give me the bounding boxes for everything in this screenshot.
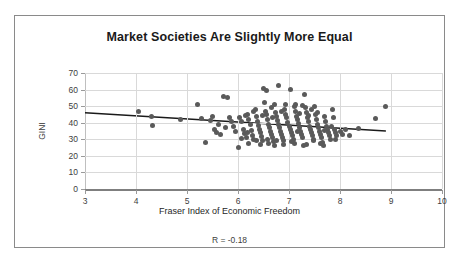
y-axis-tick-label: 30 <box>69 134 78 144</box>
scatter-point <box>216 122 221 127</box>
scatter-point <box>136 109 141 114</box>
scatter-point <box>272 143 277 148</box>
y-axis-tick-label: 10 <box>69 167 78 177</box>
x-axis-label: Fraser Index of Economic Freedom <box>15 206 444 216</box>
scatter-point <box>245 130 250 135</box>
gridline-vertical <box>442 73 443 189</box>
scatter-point <box>289 139 294 144</box>
y-axis-tick <box>81 139 85 140</box>
scatter-point <box>300 103 305 108</box>
scatter-point <box>239 136 244 141</box>
scatter-point <box>264 88 269 93</box>
scatter-point <box>203 140 208 145</box>
x-axis-tick-label: 9 <box>389 196 394 206</box>
x-axis-tick-label: 6 <box>236 196 241 206</box>
y-axis-label: GINI <box>37 122 47 139</box>
x-axis-tick <box>238 190 239 194</box>
x-axis-tick <box>442 190 443 194</box>
scatter-point <box>254 114 259 119</box>
scatter-point <box>300 135 305 140</box>
x-axis-tick <box>85 190 86 194</box>
scatter-point <box>248 122 253 127</box>
scatter-point <box>149 114 154 119</box>
scatter-point <box>243 113 248 118</box>
scatter-point <box>297 111 302 116</box>
x-axis-tick <box>187 190 188 194</box>
x-axis-tick <box>340 190 341 194</box>
gridline-horizontal <box>85 156 442 157</box>
scatter-point <box>258 142 263 147</box>
scatter-point <box>323 119 328 124</box>
x-axis-tick-label: 4 <box>134 196 139 206</box>
scatter-point <box>178 117 183 122</box>
gridline-vertical <box>136 73 137 189</box>
scatter-point <box>340 132 345 137</box>
scatter-point <box>343 127 348 132</box>
chart-frame: Market Societies Are Slightly More Equal… <box>14 15 445 248</box>
x-axis-tick <box>391 190 392 194</box>
scatter-point <box>239 119 244 124</box>
y-axis-tick <box>81 156 85 157</box>
gridline-horizontal <box>85 73 442 74</box>
y-axis-tick-label: 20 <box>69 151 78 161</box>
y-axis-tick-label: 50 <box>69 101 78 111</box>
scatter-point <box>329 124 334 129</box>
y-axis-tick <box>81 106 85 107</box>
scatter-point <box>199 116 204 121</box>
scatter-point <box>210 114 215 119</box>
x-axis-tick-label: 10 <box>437 196 446 206</box>
scatter-point <box>218 132 223 137</box>
y-axis-tick-label: 40 <box>69 118 78 128</box>
gridline-horizontal <box>85 172 442 173</box>
scatter-point <box>150 123 155 128</box>
x-axis-tick-label: 8 <box>338 196 343 206</box>
x-axis-tick <box>136 190 137 194</box>
scatter-point <box>304 142 309 147</box>
scatter-point <box>265 137 270 142</box>
scatter-point <box>302 92 307 97</box>
scatter-point <box>236 145 241 150</box>
scatter-point <box>309 107 314 112</box>
x-axis-tick <box>289 190 290 194</box>
clipped-caption <box>4 256 204 264</box>
scatter-point <box>260 113 265 118</box>
scatter-point <box>254 138 259 143</box>
x-axis-tick-label: 3 <box>83 196 88 206</box>
correlation-annotation: R = -0.18 <box>15 235 444 245</box>
x-axis-tick-label: 5 <box>185 196 190 206</box>
y-axis-tick <box>81 172 85 173</box>
scatter-point <box>244 135 249 140</box>
x-axis-line <box>85 189 442 191</box>
scatter-point <box>322 114 327 119</box>
gridline-horizontal <box>85 106 442 107</box>
gridline-horizontal <box>85 123 442 124</box>
scatter-point <box>306 113 311 118</box>
y-axis-tick-label: 60 <box>69 85 78 95</box>
scatter-point <box>293 102 298 107</box>
y-axis-tick <box>81 73 85 74</box>
y-axis-tick <box>81 123 85 124</box>
gridline-vertical <box>391 73 392 189</box>
gridline-vertical <box>238 73 239 189</box>
y-axis-tick <box>81 90 85 91</box>
scatter-point <box>322 128 327 133</box>
chart-title: Market Societies Are Slightly More Equal <box>15 30 444 44</box>
scatter-point <box>288 87 293 92</box>
scatter-point <box>306 119 311 124</box>
plot-area: 010203040506070345678910 <box>85 73 442 189</box>
y-axis-tick-label: 70 <box>69 68 78 78</box>
scatter-point <box>195 102 200 107</box>
x-axis-tick-label: 7 <box>287 196 292 206</box>
y-axis-tick-label: 0 <box>73 184 78 194</box>
gridline-vertical <box>187 73 188 189</box>
scatter-point <box>251 109 256 114</box>
scatter-point <box>246 141 251 146</box>
